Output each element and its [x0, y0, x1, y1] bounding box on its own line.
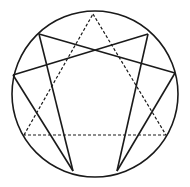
triangle-dashed-lines	[24, 14, 166, 135]
hexad-solid-lines	[13, 34, 175, 171]
solid-edge-5-7	[13, 75, 73, 171]
enneagram-diagram	[0, 0, 190, 187]
dashed-edge-6-9	[24, 14, 93, 135]
solid-edge-1-4	[117, 34, 148, 171]
solid-edge-4-2	[117, 73, 175, 171]
solid-edge-7-1	[13, 34, 148, 75]
outer-circle	[12, 11, 178, 177]
solid-edge-2-8	[39, 34, 175, 73]
solid-edge-8-5	[39, 34, 73, 171]
